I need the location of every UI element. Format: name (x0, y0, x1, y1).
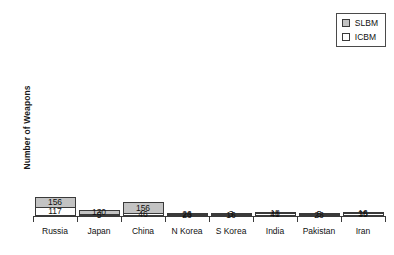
bar-value-japan-icbm: 5 (97, 211, 102, 220)
bar-value-pakistan-icbm: 23 (314, 211, 323, 220)
bar-stack-japan[interactable]: 130 5 (79, 205, 120, 217)
plot-area: 156 117 130 5 (33, 8, 385, 216)
x-axis-labels: Russia Japan China N Korea S Korea India… (33, 226, 385, 242)
stacked-bar-chart: Number of Weapons 156 117 130 (0, 0, 394, 255)
x-axis-label-japan: Japan (77, 226, 121, 242)
x-axis-label-pakistan: Pakistan (297, 226, 341, 242)
x-axis-label-iran: Iran (341, 226, 385, 242)
legend-label-icbm: ICBM (355, 32, 376, 42)
bar-stack-s-korea[interactable]: 3 16 (211, 205, 252, 217)
legend-swatch-slbm-icon (342, 19, 350, 27)
bar-slot-japan[interactable]: 130 5 (77, 8, 121, 216)
bar-value-china-icbm: 46 (138, 210, 147, 219)
bar-slot-n-korea[interactable]: 26 23 (165, 8, 209, 216)
x-axis-ticks (33, 216, 385, 222)
legend-swatch-icbm-icon (342, 33, 350, 41)
bar-value-n-korea-icbm: 23 (182, 211, 191, 220)
x-axis-label-s-korea: S Korea (209, 226, 253, 242)
bar-slot-china[interactable]: 156 46 (121, 8, 165, 216)
bar-stack-pakistan[interactable]: 5 23 (299, 205, 340, 217)
bar-stack-n-korea[interactable]: 26 23 (167, 196, 208, 216)
bar-value-russia-icbm: 117 (48, 207, 62, 216)
bar-value-s-korea-icbm: 16 (226, 211, 235, 220)
bars-layer: 156 117 130 5 (33, 8, 385, 216)
bar-value-india-icbm: 41 (270, 210, 279, 219)
legend-item-icbm[interactable]: ICBM (342, 32, 378, 42)
x-axis-label-n-korea: N Korea (165, 226, 209, 242)
bar-stack-china[interactable]: 156 46 (123, 196, 164, 216)
legend-item-slbm[interactable]: SLBM (342, 18, 378, 28)
bar-slot-india[interactable]: 18 41 (253, 8, 297, 216)
legend-label-slbm: SLBM (355, 18, 378, 28)
x-axis-label-india: India (253, 226, 297, 242)
bar-stack-india[interactable]: 18 41 (255, 196, 296, 216)
x-axis-label-china: China (121, 226, 165, 242)
bar-stack-russia[interactable]: 156 117 (35, 196, 76, 216)
bar-value-iran-icbm: 35 (358, 210, 367, 219)
bar-slot-s-korea[interactable]: 3 16 (209, 8, 253, 216)
x-axis-label-russia: Russia (33, 226, 77, 242)
legend: SLBM ICBM (336, 13, 386, 47)
bar-segment-russia-icbm[interactable]: 117 (35, 207, 76, 216)
bar-stack-iran[interactable]: 16 35 (343, 196, 384, 216)
x-tick-russia (33, 216, 77, 222)
bar-slot-russia[interactable]: 156 117 (33, 8, 77, 216)
bar-slot-pakistan[interactable]: 5 23 (297, 8, 341, 216)
